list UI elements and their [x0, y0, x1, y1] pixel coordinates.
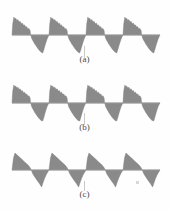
waveform-figure: (a) (b) (c): [0, 0, 169, 210]
panel-label-c: (c): [0, 189, 169, 199]
panel-label-a: (a): [0, 54, 169, 64]
panel-label-b: (b): [0, 122, 169, 132]
scan-speck: [136, 181, 139, 184]
